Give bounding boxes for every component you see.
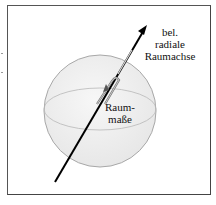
sphere bbox=[44, 55, 156, 167]
radial-axis-label: bel. radiale Raumachse bbox=[140, 26, 200, 62]
axis-label-line: radiale bbox=[140, 38, 200, 50]
space-measure-label: Raum- maße bbox=[103, 101, 137, 125]
axis-label-line: bel. bbox=[140, 26, 200, 38]
axis-label-line: Raumachse bbox=[140, 50, 200, 62]
measure-label-line: maße bbox=[103, 113, 137, 125]
measure-label-line: Raum- bbox=[103, 101, 137, 113]
